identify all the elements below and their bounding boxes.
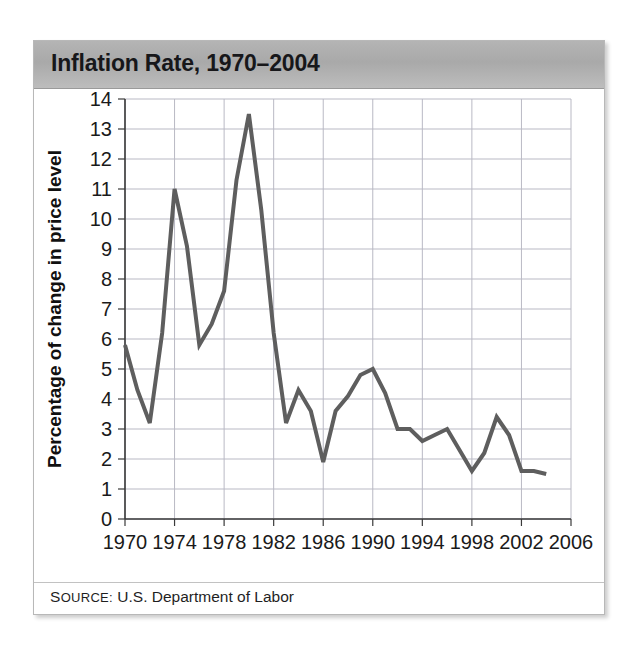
x-axis-tick-label: 1978 [202,531,247,553]
data-series-group [125,114,546,474]
y-axis-tick-label: 11 [91,178,112,200]
y-axis-tick-label: 7 [101,298,112,320]
y-axis-tick-label: 10 [90,208,112,230]
source-label: SOURCE: [50,590,113,605]
y-axis-tick-label: 6 [101,328,112,350]
chart-plot-area: 01234567891011121314 1970197419781982198… [34,89,604,585]
source-colon: : [109,590,113,605]
source-row: SOURCE: U.S. Department of Labor [34,582,604,614]
y-axis-title: Percentage of change in price level [44,150,65,468]
y-axis-tick-label: 4 [101,388,112,410]
x-axis-tick-label: 1970 [103,531,148,553]
x-axis-tick-label: 1994 [400,531,445,553]
axis-lines [118,99,571,526]
source-value: U.S. Department of Labor [117,588,294,605]
inflation-line-chart: 01234567891011121314 1970197419781982198… [34,89,606,585]
source-label-initial: S [50,588,61,605]
y-axis-tick-label: 1 [101,478,112,500]
x-axis-tick-label: 1990 [351,531,396,553]
page-title: Inflation Rate, 1970–2004 [51,50,320,77]
gridlines [125,99,571,519]
y-axis-tick-label: 3 [101,418,112,440]
x-axis-tick-label: 1982 [251,531,296,553]
chart-title-bar: Inflation Rate, 1970–2004 [34,41,604,89]
x-axis-tick-label: 2006 [549,531,594,553]
x-axis-tick-label: 1974 [152,531,197,553]
y-axis-tick-label: 12 [90,148,112,170]
source-note: SOURCE: U.S. Department of Labor [50,588,294,606]
data-line [125,114,546,474]
x-axis-tick-label: 1986 [301,531,346,553]
figure-panel: Inflation Rate, 1970–2004 01234567891011… [33,40,605,615]
source-label-rest: OURCE [61,590,109,605]
y-axis-tick-labels: 01234567891011121314 [90,89,112,530]
x-axis-tick-labels: 1970197419781982198619901994199820022006 [103,531,594,553]
y-axis-tick-label: 0 [101,508,112,530]
y-axis-tick-label: 8 [101,268,112,290]
y-axis-tick-label: 14 [90,89,112,110]
y-axis-tick-label: 2 [101,448,112,470]
x-axis-tick-label: 1998 [450,531,495,553]
y-axis-tick-label: 5 [101,358,112,380]
y-axis-tick-label: 13 [90,118,112,140]
x-axis-tick-label: 2002 [499,531,544,553]
y-axis-tick-label: 9 [101,238,112,260]
